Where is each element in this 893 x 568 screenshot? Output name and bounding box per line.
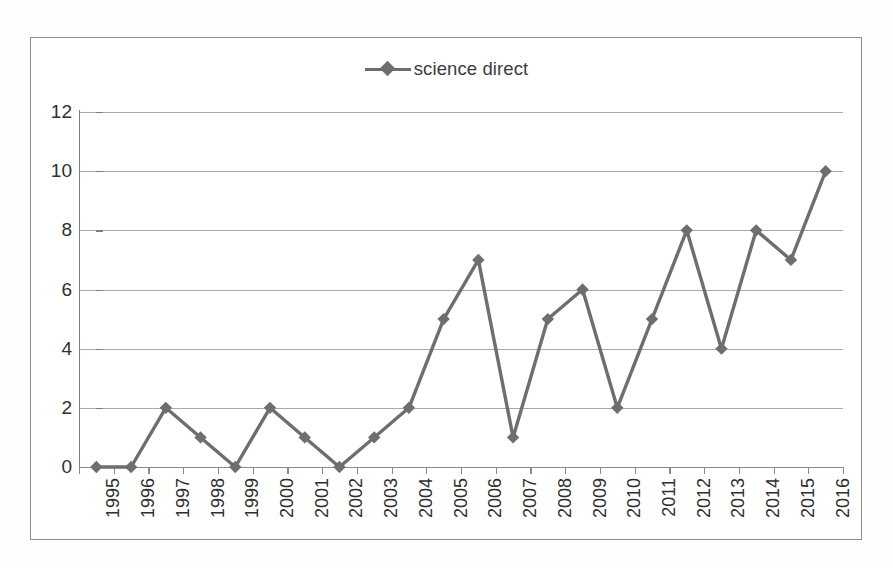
x-axis-tick-label: 2010 <box>625 478 643 518</box>
x-axis-tick-mark <box>392 467 393 474</box>
x-axis-tick-label: 1997 <box>174 478 192 518</box>
gridline-y-4 <box>79 349 843 350</box>
chart-figure: science direct 024681012 199519961997199… <box>0 0 893 568</box>
x-axis-tick-mark <box>114 467 115 474</box>
x-axis-tick-label: 2016 <box>834 478 852 518</box>
y-axis-tick-label: 2 <box>32 398 72 417</box>
x-axis-tick-mark <box>461 467 462 474</box>
x-axis-tick-mark <box>635 467 636 474</box>
x-axis-tick-mark <box>253 467 254 474</box>
x-axis-tick-mark <box>426 467 427 474</box>
x-axis-tick-mark <box>704 467 705 474</box>
x-axis-tick-label: 2004 <box>417 478 435 518</box>
x-axis-tick-mark <box>218 467 219 474</box>
x-axis-tick-label: 2015 <box>799 478 817 518</box>
x-axis-tick-mark <box>148 467 149 474</box>
x-axis-tick-mark <box>843 467 844 474</box>
x-axis-tick-mark <box>357 467 358 474</box>
x-axis-tick-mark <box>739 467 740 474</box>
x-axis-tick-label: 2003 <box>382 478 400 518</box>
gridline-y-12 <box>79 112 843 113</box>
y-axis-tick-label: 4 <box>32 339 72 358</box>
plot-area <box>79 112 843 467</box>
x-axis-tick-mark <box>79 467 80 474</box>
x-axis-tick-mark <box>774 467 775 474</box>
gridline-y-6 <box>79 290 843 291</box>
y-axis-tick-mark <box>96 290 103 291</box>
gridline-y-10 <box>79 171 843 172</box>
x-axis-tick-label: 1995 <box>104 478 122 518</box>
y-axis-tick-label: 6 <box>32 280 72 299</box>
x-axis-tick-label: 2001 <box>313 478 331 518</box>
x-axis-tick-mark <box>600 467 601 474</box>
y-axis-tick-mark <box>96 408 103 409</box>
x-axis-tick-label: 2002 <box>347 478 365 518</box>
x-axis-tick-label: 2000 <box>278 478 296 518</box>
x-axis-tick-label: 2005 <box>452 478 470 518</box>
x-axis-tick-mark <box>496 467 497 474</box>
y-axis-line <box>79 110 80 469</box>
y-axis-tick-label: 0 <box>32 457 72 476</box>
x-axis-tick-mark <box>530 467 531 474</box>
x-axis-tick-label: 2012 <box>695 478 713 518</box>
gridline-y-8 <box>79 230 843 231</box>
x-axis-tick-label: 1999 <box>243 478 261 518</box>
y-axis-tick-mark <box>96 230 103 231</box>
x-axis-tick-mark <box>565 467 566 474</box>
x-axis-tick-mark <box>669 467 670 474</box>
x-axis-tick-label: 2014 <box>764 478 782 518</box>
x-axis-tick-label: 2009 <box>591 478 609 518</box>
x-axis-tick-label: 2013 <box>729 478 747 518</box>
x-axis-tick-label: 1996 <box>139 478 157 518</box>
x-axis-tick-label: 2011 <box>660 478 678 517</box>
y-axis-tick-label: 10 <box>32 161 72 180</box>
x-axis-tick-mark <box>322 467 323 474</box>
y-axis-tick-label: 8 <box>32 220 72 239</box>
x-axis-tick-label: 2006 <box>486 478 504 518</box>
x-axis-tick-label: 2007 <box>521 478 539 518</box>
x-axis-tick-mark <box>287 467 288 474</box>
x-axis-tick-mark <box>183 467 184 474</box>
y-axis-tick-mark <box>96 171 103 172</box>
y-axis-tick-group: 024681012 <box>22 112 72 467</box>
y-axis-tick-label: 12 <box>32 102 72 121</box>
x-axis-tick-label: 2008 <box>556 478 574 518</box>
x-axis-tick-label: 1998 <box>209 478 227 518</box>
gridline-y-2 <box>79 408 843 409</box>
y-axis-tick-mark <box>96 112 103 113</box>
y-axis-tick-mark <box>96 349 103 350</box>
x-axis-tick-mark <box>808 467 809 474</box>
